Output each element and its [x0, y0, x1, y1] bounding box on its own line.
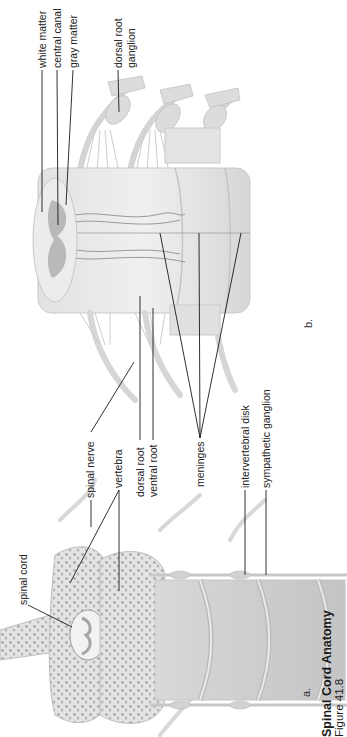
panel-label-a: a.: [300, 688, 312, 697]
spinal-cord-illustration: [0, 0, 347, 737]
label-spinal-nerve: spinal nerve: [85, 441, 96, 498]
label-central-canal: central canal: [52, 8, 63, 68]
label-ventral-root: ventral root: [148, 444, 159, 497]
figure-title: Spinal Cord Anatomy: [321, 610, 333, 737]
label-meninges: meninges: [195, 441, 206, 487]
figure-subtitle: Figure 41.8: [333, 610, 345, 737]
panel-a-illustration: [0, 480, 347, 735]
label-dorsal-root-ganglion-line2: ganglion: [126, 28, 137, 68]
label-vertebra: vertebra: [113, 449, 124, 488]
label-dorsal-root: dorsal root: [135, 447, 146, 497]
label-spinal-cord: spinal cord: [18, 554, 29, 605]
leader-lines: [28, 70, 266, 627]
label-dorsal-root-ganglion-line1: dorsal root: [113, 18, 124, 68]
label-white-matter: white matter: [37, 11, 48, 68]
label-intervertebral-disk: intervertebral disk: [240, 405, 251, 488]
panel-label-b: b.: [302, 319, 314, 328]
label-sympathetic-ganglion: sympathetic ganglion: [261, 389, 272, 488]
label-gray-matter: gray matter: [68, 15, 79, 68]
figure-caption: Spinal Cord Anatomy Figure 41.8: [321, 610, 345, 737]
